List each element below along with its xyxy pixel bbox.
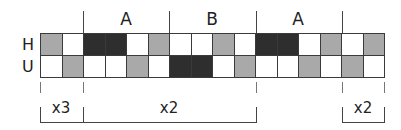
cell-h-14 (341, 33, 364, 56)
cell-u-6 (169, 55, 192, 78)
cell-h-1 (62, 33, 84, 56)
tick-mark (256, 82, 257, 93)
cell-u-2 (83, 55, 106, 78)
cell-h-7 (191, 33, 213, 56)
row-label-u: U (22, 59, 34, 75)
cell-h-5 (148, 33, 170, 56)
multiplier-x2: x2 (160, 101, 178, 116)
bracket-x2b-right (384, 107, 385, 122)
cell-h-12 (298, 33, 321, 56)
cell-h-9 (234, 33, 256, 56)
cell-h-11 (277, 33, 299, 56)
bracket-x2-base (83, 122, 257, 123)
section-divider (256, 11, 257, 33)
cell-u-9 (234, 55, 256, 78)
cell-h-0 (40, 33, 63, 56)
bracket-x2b-base (342, 122, 385, 123)
section-divider (342, 11, 343, 33)
cell-u-11 (277, 55, 299, 78)
cell-u-4 (126, 55, 149, 78)
bracket-x3-right (83, 107, 84, 122)
tick-mark (40, 82, 41, 93)
cell-h-6 (169, 33, 192, 56)
cell-u-13 (320, 55, 342, 78)
cell-u-10 (255, 55, 278, 78)
section-divider (83, 11, 84, 33)
tick-mark (384, 82, 385, 93)
cell-h-13 (320, 33, 342, 56)
section-divider (169, 11, 170, 33)
multiplier-x3: x3 (52, 101, 70, 116)
tick-mark (83, 82, 84, 93)
cell-h-8 (212, 33, 235, 56)
tick-mark (342, 82, 343, 93)
cell-u-5 (148, 55, 170, 78)
bracket-x2-right (256, 107, 257, 122)
bracket-x3-left (40, 107, 41, 122)
cell-u-1 (62, 55, 84, 78)
bracket-x2b-left (342, 107, 343, 122)
cell-u-12 (298, 55, 321, 78)
cell-u-14 (341, 55, 364, 78)
cell-u-7 (191, 55, 213, 78)
cell-h-10 (255, 33, 278, 56)
bracket-x3-base (40, 122, 84, 123)
cell-h-2 (83, 33, 106, 56)
cell-u-8 (212, 55, 235, 78)
cell-u-3 (105, 55, 127, 78)
cell-u-0 (40, 55, 63, 78)
cell-h-15 (363, 33, 385, 56)
cell-u-15 (363, 55, 385, 78)
cell-h-4 (126, 33, 149, 56)
section-label-a2: A (292, 11, 304, 28)
row-label-h: H (22, 37, 34, 53)
cell-h-3 (105, 33, 127, 56)
multiplier-x2-end: x2 (354, 101, 372, 116)
section-label-a1: A (120, 11, 132, 28)
section-label-b: B (206, 11, 218, 28)
